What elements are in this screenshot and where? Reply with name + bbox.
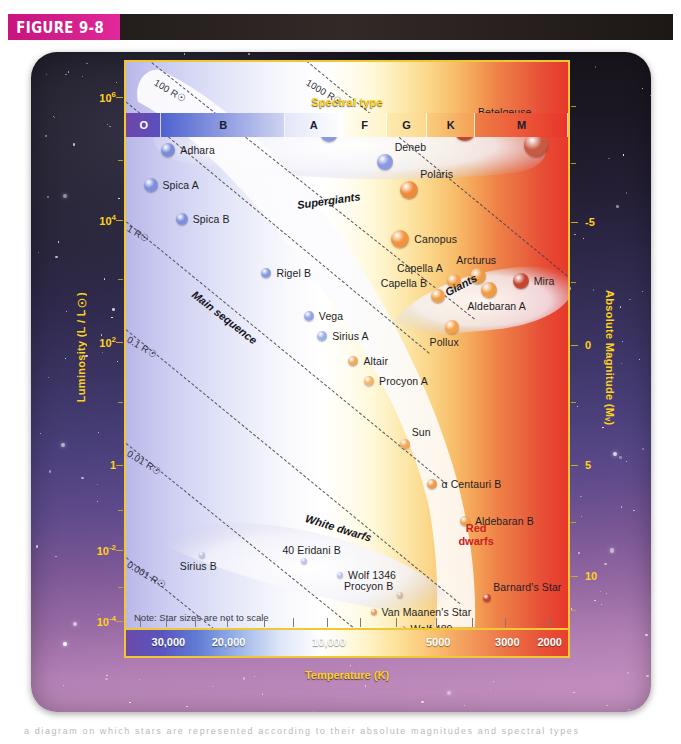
star-label: Procyon A [379,375,428,387]
figure-caption-sliver: a diagram on which stars are represented… [24,726,664,738]
background-star [594,600,595,601]
background-star [73,143,76,146]
background-star [642,448,643,449]
background-star [129,702,130,703]
background-star [61,443,65,447]
spectral-band-label: K [447,119,455,131]
star-label: 40 Eridani B [282,544,340,556]
background-star [593,289,594,290]
background-star [55,256,58,259]
star-marker [427,479,437,489]
background-star [646,675,649,678]
star-label: Mira [534,275,555,287]
star-label: Altair [363,355,388,367]
background-star [38,252,39,253]
temperature-tick-mark [396,618,397,627]
background-star [613,452,617,456]
background-star [620,306,621,307]
spectral-band-label: O [139,119,148,131]
background-star [212,686,213,687]
background-star [65,74,66,75]
background-star [109,126,110,127]
magnitude-tick-label: 5 [585,459,591,471]
luminosity-tick-label: 1 [76,459,116,471]
background-star [623,154,624,155]
background-star [464,705,465,706]
background-star [116,82,117,83]
magnitude-minor-tick [571,610,576,611]
figure-number-label: FIGURE 9-8 [8,18,104,37]
star-marker [513,273,529,289]
spectral-band-label: B [219,119,227,131]
background-star [63,685,64,686]
star-marker [301,558,307,564]
star-marker [304,311,314,321]
spectral-band-A: A [285,113,342,137]
star-label: Capella B [381,277,427,289]
temperature-color-bar: 30,00020,00010,000500030002000 [124,630,570,658]
luminosity-minor-tick [118,279,123,280]
luminosity-tick-label: 104 [76,213,116,227]
background-star [53,116,54,117]
background-star [642,88,643,89]
background-star [104,278,105,279]
magnitude-minor-tick [571,163,576,164]
background-star [63,194,67,198]
temperature-tick-mark [140,618,141,627]
star-marker [371,609,377,615]
spectral-band-label: F [361,119,368,131]
background-star [107,124,108,125]
star-marker [176,213,188,225]
scale-note: Note: Star sizes are not to scale [134,612,269,623]
spectral-band-K: K [427,113,476,137]
temperature-tick-label: 2000 [537,636,561,648]
star-label: Adhara [180,144,214,156]
star-marker [445,320,459,334]
background-star [81,477,84,480]
figure-page: FIGURE 9-8 Luminosity (L / L☉) Absolute … [0,0,681,744]
background-star [105,678,108,681]
temperature-tick-mark [293,618,294,627]
background-star [493,681,494,682]
background-star [577,406,578,407]
luminosity-tick-mark [116,550,123,551]
background-star [36,545,39,548]
temperature-tick-label: 30,000 [152,636,186,648]
star-label: Spica A [163,179,199,191]
star-marker [431,289,445,303]
background-star [580,496,581,497]
spectral-band-F: F [343,113,387,137]
star-label: Barnard's Star [493,581,561,593]
star-marker [261,268,271,278]
background-star [600,591,601,592]
radius-line-label: 0.01 R☉ [125,448,164,477]
background-star [98,432,99,433]
luminosity-tick-mark [116,97,123,98]
magnitude-minor-tick [571,106,576,107]
star-label: Deneb [395,141,426,153]
background-star [58,241,59,242]
background-star [583,238,584,239]
star-marker [377,154,393,170]
luminosity-minor-tick [118,402,123,403]
background-star [350,665,351,666]
magnitude-tick-mark [571,222,578,223]
region-label: White dwarfs [304,512,373,543]
magnitude-axis-title: Absolute Magnitude (Mᵥ) [604,290,616,426]
magnitude-minor-tick [571,522,576,523]
star-label: Capella A [397,262,443,274]
background-star [578,552,581,555]
background-star [47,196,48,197]
star-label: α Centauri B [442,478,502,490]
spectral-band-M: M [475,113,568,137]
background-star [111,317,112,318]
background-star [626,192,627,193]
spectral-type-bar: OBAFGKM [124,113,570,137]
background-star [97,484,98,485]
star-label: Aldebaran A [467,300,525,312]
background-star [627,672,630,675]
star-marker [481,282,497,298]
star-marker [400,439,410,449]
star-label: Polaris [420,168,453,180]
luminosity-tick-label: 102 [76,335,116,349]
